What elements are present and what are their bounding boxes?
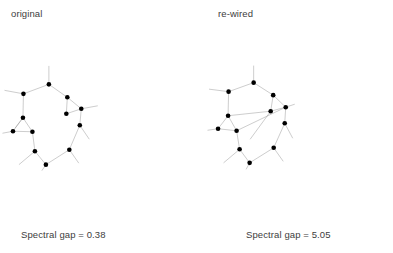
graph-stub-edge [69, 150, 78, 163]
graph-edge [69, 125, 79, 149]
graph-edge [23, 118, 32, 132]
graph-node [283, 105, 288, 110]
graph-edge [229, 83, 254, 92]
graph-edge [218, 116, 228, 129]
panel-rewired: re-wired Spectral gap = 5.05 [196, 0, 393, 253]
graph-edge [240, 149, 250, 163]
graph-rewired [196, 0, 393, 253]
graph-edge [250, 148, 274, 163]
graph-node [33, 149, 38, 154]
panel-original: original Spectral gap = 0.38 [0, 0, 196, 253]
graph-node [21, 115, 26, 120]
graph-edge [35, 151, 46, 164]
graph-stub-edge [250, 111, 271, 139]
graph-stub-edge [19, 151, 35, 164]
graph-original [0, 0, 196, 253]
graph-node [30, 129, 35, 134]
graph-edge [66, 109, 81, 114]
graph-node [226, 89, 231, 94]
graph-node [226, 113, 231, 118]
graph-node [21, 92, 26, 97]
graph-edge [66, 97, 67, 113]
graph-node [271, 145, 276, 150]
graph-node [64, 111, 69, 116]
graph-stub-edge [224, 149, 240, 163]
caption-original: Spectral gap = 0.38 [21, 229, 106, 241]
graph-stub-edge [81, 106, 97, 109]
graph-edge [228, 116, 237, 131]
graph-edge [273, 95, 286, 107]
graph-node [67, 147, 72, 152]
graph-stub-edge [209, 89, 229, 92]
graph-node [268, 109, 273, 114]
spectral-gap-figure: original Spectral gap = 0.38 re-wired Sp… [0, 0, 393, 253]
graph-edge [32, 132, 34, 151]
graph-edge [271, 95, 274, 111]
graph-node [251, 80, 256, 85]
graph-node [44, 162, 49, 167]
graph-edge [13, 118, 23, 131]
graph-stub-edge [274, 148, 284, 162]
graph-edge [237, 131, 240, 150]
graph-edge [228, 92, 229, 116]
graph-stub-edge [80, 125, 89, 139]
graph-node [216, 126, 221, 131]
graph-stub-edge [4, 90, 23, 93]
caption-rewired: Spectral gap = 5.05 [246, 229, 331, 241]
graph-node [282, 121, 287, 126]
graph-edge [80, 109, 81, 125]
graph-node [65, 95, 70, 100]
graph-edge [23, 84, 48, 93]
graph-node [79, 107, 84, 112]
graph-edge [218, 129, 237, 131]
graph-node [11, 129, 16, 134]
graph-stub-edge [285, 123, 293, 138]
graph-edge [254, 83, 274, 96]
graph-node [237, 147, 242, 152]
graph-edge [285, 107, 286, 123]
graph-edge [228, 111, 271, 116]
graph-edge [237, 107, 286, 131]
graph-node [247, 161, 252, 166]
graph-node [78, 123, 83, 128]
graph-node [47, 82, 52, 87]
graph-node [234, 128, 239, 133]
graph-edge [274, 123, 285, 148]
graph-edge [49, 84, 67, 97]
graph-edge [67, 97, 81, 108]
graph-edge [46, 150, 69, 165]
graph-node [271, 93, 276, 98]
